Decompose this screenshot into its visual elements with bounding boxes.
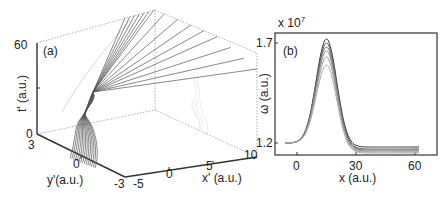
b-ticks bbox=[275, 43, 415, 155]
omega-axis-label: ω (a.u.) bbox=[257, 73, 271, 114]
y-tick-3: 3 bbox=[28, 138, 35, 152]
y-multiplier: x 107 bbox=[278, 15, 306, 30]
trajectory-line bbox=[79, 12, 149, 162]
y-axis-label: y'(a.u.) bbox=[47, 173, 83, 187]
t-tick-60: 60 bbox=[14, 38, 28, 52]
t-axis-label: t' (a.u.) bbox=[15, 75, 29, 112]
x-tick-0: 0 bbox=[293, 159, 300, 173]
x-tick-60: 60 bbox=[408, 159, 422, 173]
omega-curve bbox=[285, 57, 419, 152]
omega-curve bbox=[285, 65, 419, 153]
axis-ticks bbox=[37, 88, 213, 170]
x-axis-label: x (a.u.) bbox=[339, 171, 376, 185]
y-tick-minus3: -3 bbox=[114, 177, 125, 191]
omega-curve bbox=[285, 51, 419, 151]
panel-a-3d-plot: 60 0 (a) t' (a.u.) 3 0 -3 y'(a.u.) -5 0 … bbox=[14, 10, 258, 191]
x-tick-0: 0 bbox=[166, 167, 173, 181]
panel-b-plot: x 107 1.7 1.2 (b) ω (a.u.) 0 30 60 x (a.… bbox=[256, 15, 437, 185]
plot-frame bbox=[275, 33, 437, 155]
omega-curves bbox=[285, 39, 419, 153]
box-dotted-edges bbox=[37, 10, 257, 157]
trajectory-line bbox=[85, 25, 191, 164]
panel-a-label: (a) bbox=[43, 44, 58, 58]
faint-trajectory bbox=[62, 20, 130, 112]
x-axis-label: x' (a.u.) bbox=[202, 171, 242, 185]
trajectory-line bbox=[85, 47, 230, 166]
figure: 60 0 (a) t' (a.u.) 3 0 -3 y'(a.u.) -5 0 … bbox=[0, 0, 445, 198]
y-tick-1-2: 1.2 bbox=[256, 136, 273, 150]
panel-b-label: (b) bbox=[283, 44, 298, 58]
y-tick-1-7: 1.7 bbox=[256, 36, 273, 50]
x-tick-minus5: -5 bbox=[133, 177, 144, 191]
y-tick-0: 0 bbox=[73, 157, 80, 171]
x-tick-10: 10 bbox=[244, 148, 258, 162]
